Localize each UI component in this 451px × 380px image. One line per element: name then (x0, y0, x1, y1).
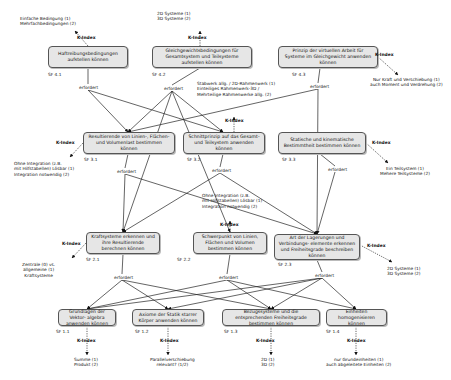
kindex-label: K-Index (225, 118, 244, 123)
node-sf42: Gleichgewichtsbedingungen für Gesamtsyst… (152, 46, 252, 68)
requires-edge (128, 91, 172, 132)
edge-to-requires (125, 154, 128, 168)
kindex-desc: Parallelverschiebung relevant? (1/2) (150, 357, 195, 368)
node-sf11: Grundlagen der Vektor- algebra anwenden … (58, 309, 116, 326)
kindex-line: Integration notwendig (2) (14, 172, 74, 177)
kindex-desc: Zentrale (0) vs. allgemeine (1) Kraftsys… (22, 262, 55, 278)
node-sf33: Statische und kinematische Bestimmtheit … (278, 132, 366, 154)
kindex-label: K-Index (220, 222, 239, 227)
node-sf14: Einheiten homogenisieren können (326, 309, 387, 326)
kindex-desc: nur Grundeinheiten (1) auch abgeleitete … (326, 357, 391, 368)
kindex-label: K-Index (77, 35, 96, 40)
kindex-line: auch Moment und Verdrehung (2) (370, 82, 443, 87)
kindex-line: relevant? (1/2) (150, 362, 195, 367)
requires-edge (271, 278, 322, 309)
kindex-line: Mehrteilige Rahmenwerke allg. (2) (197, 92, 275, 97)
sf-label: SF 2.2 (177, 257, 190, 262)
kindex-desc: Summe (1) Produkt (2) (74, 357, 98, 368)
sf-label: SF 3.3 (282, 157, 295, 162)
kindex-desc: Ohne Integration (z.B. mit Hilfstabellen… (202, 193, 262, 209)
requires-label: erfordert (117, 169, 136, 174)
kindex-label: K-Index (375, 52, 394, 57)
kindex-line: auch abgeleitete Einheiten (2) (326, 362, 391, 367)
kindex-connector (366, 143, 388, 163)
sf-label: SF 2.3 (278, 262, 291, 267)
kindex-line: Kraftsysteme (22, 273, 55, 278)
sf-label: SF 2.1 (86, 257, 99, 262)
requires-label: erfordert (310, 84, 329, 89)
sf-label: SF 1.1 (56, 329, 69, 334)
requires-label: erfordert (79, 85, 98, 90)
node-sf23: Art der Lagerungen und Verbindungs- elem… (274, 234, 360, 260)
requires-edge (317, 172, 335, 234)
requires-edge (317, 89, 318, 234)
requires-label: erfordert (315, 273, 334, 278)
node-sf32: Schnittprinzip auf das Gesamt- und Teils… (183, 132, 265, 154)
requires-edge (123, 91, 172, 232)
kindex-line: Mehere Teilsysteme (2) (380, 171, 430, 176)
node-sf21: Kraftsysteme erkennen und ihre Resultier… (86, 232, 160, 254)
edge-to-requires (220, 154, 223, 167)
kindex-label: K-Index (347, 338, 366, 343)
kindex-label: K-Index (62, 241, 81, 246)
kindex-desc: Stabwerk allg. / 2D-Rahmenwerk (1) Einte… (197, 81, 275, 97)
edge-to-requires (122, 254, 123, 274)
node-sf13: Bezugssysteme und die entsprechenden Fre… (222, 309, 320, 326)
sf-label: SF 3.2 (187, 157, 200, 162)
kindex-desc: 2D Systeme (1) 3D Systeme (2) (157, 11, 191, 22)
kindex-connector (70, 143, 83, 157)
requires-label: erfordert (328, 167, 347, 172)
kindex-line: Produkt (2) (74, 362, 98, 367)
node-sf22: Schwerpunkt von Linien, Flächen und Volu… (193, 232, 267, 254)
kindex-line: Integration notwendig (2) (202, 204, 262, 209)
kindex-desc: Ohne Integration (z.B. mit Hilfstabellen… (14, 161, 74, 177)
edge-to-requires (172, 68, 200, 85)
kindex-label: K-Index (367, 243, 386, 248)
edge-to-requires (320, 154, 335, 166)
sf-label: SF 4.3 (292, 72, 305, 77)
node-sf12: Axiome der Statik starrer Körper anwende… (132, 309, 204, 326)
kindex-label: K-Index (372, 140, 391, 145)
requires-label: erfordert (219, 275, 238, 280)
kindex-label: K-Index (160, 338, 179, 343)
kindex-line: Mehrfachbedingungen (2) (20, 21, 76, 26)
competence-diagram: Haftreibungsbedingungen aufstellen könne… (0, 0, 451, 380)
requires-label: erfordert (164, 86, 183, 91)
sf-label: SF 1.2 (135, 329, 148, 334)
kindex-label: K-Index (77, 338, 96, 343)
requires-edge (87, 280, 227, 309)
kindex-connector (378, 57, 398, 75)
requires-edge (123, 174, 125, 232)
kindex-line: 3D Systeme (2) (387, 271, 421, 276)
requires-edge (322, 278, 356, 309)
sf-label: SF 3.1 (84, 157, 97, 162)
node-sf41: Haftreibungsbedingungen aufstellen könne… (48, 46, 128, 68)
kindex-line: 3D (2) (261, 362, 275, 367)
sf-label: SF 4.2 (152, 72, 165, 77)
kindex-desc: 2D (1) 3D (2) (261, 357, 275, 368)
sf-label: SF 4.1 (48, 72, 61, 77)
requires-label: erfordert (212, 168, 231, 173)
kindex-label: K-Index (56, 140, 75, 145)
edge-to-requires (318, 68, 320, 83)
kindex-desc: 2D Systeme (1) 3D Systeme (2) (387, 266, 421, 277)
node-sf43: Prinzip der virtuellen Arbeit für System… (278, 46, 378, 68)
edge-to-requires (227, 254, 230, 274)
kindex-line: 3D Systeme (2) (157, 16, 191, 21)
sf-label: SF 1.4 (326, 329, 339, 334)
requires-edge (87, 280, 122, 309)
requires-label: erfordert (114, 275, 133, 280)
kindex-label: K-Index (256, 338, 275, 343)
sf-label: SF 1.3 (224, 329, 237, 334)
kindex-desc: Nur Kraft und Verschiebung (1) auch Mome… (370, 77, 443, 88)
kindex-desc: Ein Teilsystem (1) Mehere Teilsysteme (2… (380, 166, 430, 177)
kindex-desc: Einfache Bedingung (1) Mehrfachbedingung… (20, 16, 76, 27)
kindex-label: K-Index (188, 35, 207, 40)
edge-to-requires (317, 260, 322, 272)
node-sf31: Resultierende von Linien-, Flächen- und … (83, 132, 175, 154)
